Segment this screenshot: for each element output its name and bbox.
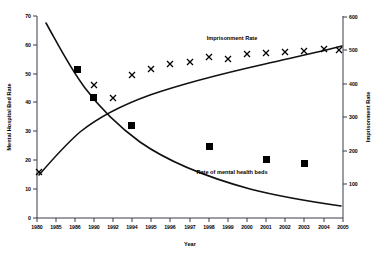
right-axis-ticks: [343, 17, 347, 184]
imprisonment-rate-label: Imprisonment Rate: [207, 35, 258, 41]
x-tick-label: 2000: [241, 224, 253, 230]
x-tick-label: 1986: [69, 224, 81, 230]
right-tick-label: 100: [349, 181, 358, 187]
right-axis-tick-labels: 100 200 300 400 500 600: [349, 14, 358, 187]
left-tick-label: 60: [25, 42, 31, 48]
right-tick-label: 600: [349, 14, 358, 20]
left-tick-label: 0: [28, 215, 31, 221]
right-tick-label: 200: [349, 148, 358, 154]
left-axis-title: Mental Hospital Bed Rate: [6, 83, 12, 150]
bottom-axis-title: Year: [184, 241, 197, 247]
mental-health-beds-label: Rate of mental health beds: [196, 169, 267, 175]
left-axis-tick-labels: 0 10 20 30 40 50 60 70: [25, 13, 31, 221]
right-tick-label: 400: [349, 81, 358, 87]
x-tick-label: 1996: [164, 224, 176, 230]
imprisonment-rate-markers: [36, 46, 342, 175]
x-tick-label: 2005: [337, 224, 349, 230]
chart-plot-area: 0 10 20 30 40 50 60 70 100 200 300 400 5…: [0, 0, 380, 254]
x-tick-label: 2003: [298, 224, 310, 230]
x-tick-label: 1997: [184, 224, 196, 230]
x-tick-label: 1990: [88, 224, 100, 230]
left-tick-label: 50: [25, 71, 31, 77]
x-tick-label: 1995: [145, 224, 157, 230]
x-tick-label: 2001: [260, 224, 272, 230]
left-tick-label: 40: [25, 99, 31, 105]
right-axis-title: Imprisonment Rate: [365, 92, 371, 143]
chart-container: 0 10 20 30 40 50 60 70 100 200 300 400 5…: [0, 0, 380, 254]
x-tick-label: 1999: [222, 224, 234, 230]
x-tick-label: 1985: [50, 224, 62, 230]
left-tick-label: 20: [25, 157, 31, 163]
left-tick-label: 10: [25, 186, 31, 192]
x-tick-label: 1994: [126, 224, 138, 230]
x-tick-label: 1998: [203, 224, 215, 230]
bottom-axis-ticks: [37, 218, 343, 222]
left-axis-ticks: [33, 16, 37, 218]
imprisonment-rate-curve: [39, 46, 342, 175]
bottom-axis-tick-labels: 1980 1985 1986 1990 1992 1994 1995 1996 …: [31, 224, 349, 230]
x-tick-label: 2004: [318, 224, 330, 230]
right-tick-label: 500: [349, 47, 358, 53]
left-tick-label: 70: [25, 13, 31, 19]
left-tick-label: 30: [25, 128, 31, 134]
right-tick-label: 300: [349, 114, 358, 120]
mental-health-beds-curve: [46, 23, 341, 206]
x-tick-label: 1980: [31, 224, 43, 230]
x-tick-label: 1992: [107, 224, 119, 230]
x-tick-label: 2002: [279, 224, 291, 230]
